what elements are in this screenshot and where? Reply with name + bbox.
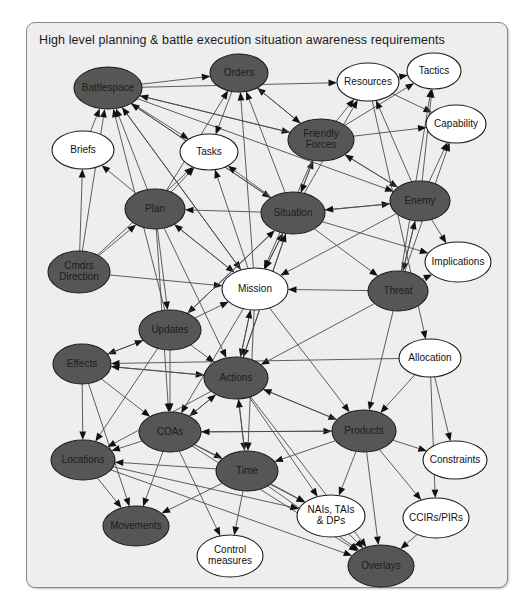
- diagram-canvas: High level planning & battle execution s…: [0, 0, 532, 613]
- graph-node-cmdrs_direction[interactable]: CmdrsDirection: [48, 251, 110, 293]
- node-label: Time: [236, 465, 258, 476]
- node-label: Locations: [62, 454, 105, 465]
- node-label: Orders: [224, 67, 255, 78]
- node-label: Forces: [306, 139, 337, 150]
- node-label: Constraints: [430, 454, 481, 465]
- node-label: Plan: [145, 203, 165, 214]
- graph-node-nais_tais_dps[interactable]: NAIs, TAIs& DPs: [297, 495, 365, 537]
- graph-node-implications[interactable]: Implications: [425, 242, 491, 282]
- node-label: Resources: [344, 76, 392, 87]
- node-label: Implications: [432, 256, 485, 267]
- node-label: Products: [344, 425, 383, 436]
- node-label: Tactics: [419, 65, 450, 76]
- node-label: & DPs: [317, 515, 345, 526]
- node-label: Mission: [238, 283, 272, 294]
- graph-node-mission[interactable]: Mission: [222, 268, 288, 310]
- graph-node-tactics[interactable]: Tactics: [407, 53, 461, 89]
- graph-node-plan[interactable]: Plan: [125, 189, 185, 229]
- node-label: COAs: [157, 426, 184, 437]
- graph-node-allocation[interactable]: Allocation: [399, 339, 461, 377]
- node-label: Actions: [220, 372, 253, 383]
- node-label: Tasks: [196, 146, 222, 157]
- graph-node-effects[interactable]: Effects: [53, 344, 111, 384]
- node-label: Control: [214, 544, 246, 555]
- node-label: Capability: [434, 118, 478, 129]
- graph-node-threat[interactable]: Threat: [368, 271, 428, 311]
- graph-node-products[interactable]: Products: [332, 410, 396, 452]
- node-label: Overlays: [361, 560, 400, 571]
- graph-node-capability[interactable]: Capability: [426, 105, 486, 143]
- node-label: Enemy: [404, 195, 435, 206]
- graph-node-orders[interactable]: Orders: [210, 54, 268, 92]
- graph-node-updates[interactable]: Updates: [139, 310, 201, 350]
- graph-node-tasks[interactable]: Tasks: [180, 134, 238, 170]
- node-label: Effects: [67, 358, 97, 369]
- node-label: Briefs: [70, 144, 96, 155]
- graph-node-locations[interactable]: Locations: [51, 440, 115, 480]
- node-label: NAIs, TAIs: [308, 504, 355, 515]
- graph-node-ccirs_pirs[interactable]: CCIRs/PIRs: [403, 498, 469, 538]
- node-label: measures: [208, 555, 252, 566]
- graph-node-movements[interactable]: Movements: [103, 506, 169, 546]
- graph-node-constraints[interactable]: Constraints: [423, 441, 487, 479]
- graph-node-friendly_forces[interactable]: FriendlyForces: [288, 119, 354, 161]
- graph-node-briefs[interactable]: Briefs: [52, 131, 114, 169]
- node-label: Battlespace: [82, 82, 135, 93]
- diagram-title: High level planning & battle execution s…: [39, 33, 445, 47]
- node-label: Direction: [59, 271, 98, 282]
- node-label: Updates: [151, 324, 188, 335]
- graph-node-situation[interactable]: Situation: [261, 192, 325, 234]
- node-label: Threat: [384, 285, 413, 296]
- node-label: Cmdrs: [64, 260, 93, 271]
- graph-node-overlays[interactable]: Overlays: [348, 545, 414, 587]
- node-label: Allocation: [408, 352, 451, 363]
- node-label: Situation: [274, 207, 313, 218]
- graph-node-battlespace[interactable]: Battlespace: [74, 67, 142, 109]
- graph-node-control_measures[interactable]: Controlmeasures: [197, 535, 263, 577]
- graph-node-actions[interactable]: Actions: [204, 357, 268, 399]
- graph-node-enemy[interactable]: Enemy: [390, 181, 450, 221]
- node-label: Friendly: [303, 128, 339, 139]
- node-label: CCIRs/PIRs: [409, 512, 463, 523]
- graph-node-time[interactable]: Time: [216, 451, 278, 491]
- graph-node-resources[interactable]: Resources: [337, 63, 399, 101]
- graph-node-coas[interactable]: COAs: [139, 412, 201, 452]
- node-label: Movements: [110, 520, 162, 531]
